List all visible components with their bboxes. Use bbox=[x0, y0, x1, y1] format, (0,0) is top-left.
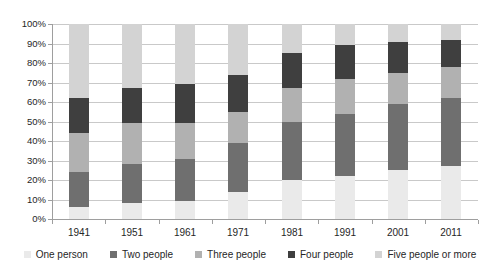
legend: One personTwo peopleThree peopleFour peo… bbox=[0, 249, 500, 260]
bar-1951-segment-two-people bbox=[122, 164, 142, 203]
y-axis-tick-10 bbox=[48, 200, 52, 201]
bar-1991-segment-five-people-or-more bbox=[335, 24, 355, 45]
x-axis-label-1991: 1991 bbox=[323, 227, 367, 238]
plot-area bbox=[52, 24, 478, 219]
bar-2001-segment-four-people bbox=[388, 42, 408, 73]
bar-1961-segment-one-person bbox=[175, 201, 195, 219]
bar-2011-segment-one-person bbox=[441, 166, 461, 219]
bar-1951-segment-three-people bbox=[122, 123, 142, 164]
bar-1941-segment-three-people bbox=[69, 133, 89, 172]
bar-2011-segment-two-people bbox=[441, 98, 461, 166]
x-axis-tick-2 bbox=[159, 220, 160, 224]
bar-1951-segment-five-people-or-more bbox=[122, 24, 142, 88]
gridline-20 bbox=[52, 180, 478, 181]
bar-1941-segment-two-people bbox=[69, 172, 89, 207]
legend-item-one-person: One person bbox=[24, 249, 88, 260]
x-axis-tick-5 bbox=[318, 220, 319, 224]
legend-label-two-people: Two people bbox=[122, 249, 173, 260]
legend-swatch-one-person bbox=[24, 251, 31, 258]
legend-swatch-four-people bbox=[288, 251, 295, 258]
gridline-40 bbox=[52, 141, 478, 142]
y-axis-tick-80 bbox=[48, 63, 52, 64]
y-axis-label-40: 40% bbox=[27, 136, 46, 146]
bar-1951-segment-four-people bbox=[122, 88, 142, 123]
x-axis-label-2001: 2001 bbox=[376, 227, 420, 238]
bar-1981-segment-two-people bbox=[282, 122, 302, 180]
x-axis-tick-6 bbox=[372, 220, 373, 224]
y-axis-label-100: 100% bbox=[22, 19, 46, 29]
y-axis-tick-90 bbox=[48, 44, 52, 45]
gridline-70 bbox=[52, 83, 478, 84]
bar-2011-segment-four-people bbox=[441, 40, 461, 67]
y-axis-label-70: 70% bbox=[27, 78, 46, 88]
bar-2001-segment-five-people-or-more bbox=[388, 24, 408, 42]
y-axis-label-50: 50% bbox=[27, 117, 46, 127]
gridline-50 bbox=[52, 122, 478, 123]
bar-1971-segment-five-people-or-more bbox=[228, 24, 248, 75]
bar-1991-segment-three-people bbox=[335, 79, 355, 114]
y-axis-tick-100 bbox=[48, 24, 52, 25]
x-axis-label-1961: 1961 bbox=[163, 227, 207, 238]
x-axis-tick-4 bbox=[265, 220, 266, 224]
y-axis-label-60: 60% bbox=[27, 97, 46, 107]
bar-2011-segment-three-people bbox=[441, 67, 461, 98]
bar-1971-segment-one-person bbox=[228, 192, 248, 219]
gridline-10 bbox=[52, 200, 478, 201]
gridline-100 bbox=[52, 24, 478, 25]
y-axis-label-30: 30% bbox=[27, 156, 46, 166]
legend-swatch-two-people bbox=[110, 251, 117, 258]
bar-1981-segment-five-people-or-more bbox=[282, 24, 302, 53]
bar-1941-segment-one-person bbox=[69, 207, 89, 219]
y-axis-tick-30 bbox=[48, 161, 52, 162]
x-axis-label-1941: 1941 bbox=[57, 227, 101, 238]
y-axis-tick-50 bbox=[48, 122, 52, 123]
gridline-80 bbox=[52, 63, 478, 64]
legend-label-one-person: One person bbox=[36, 249, 88, 260]
bar-1981-segment-four-people bbox=[282, 53, 302, 88]
bar-1981-segment-one-person bbox=[282, 180, 302, 219]
x-axis-tick-3 bbox=[212, 220, 213, 224]
bar-2001-segment-three-people bbox=[388, 73, 408, 104]
x-axis-label-1951: 1951 bbox=[110, 227, 154, 238]
y-axis-tick-60 bbox=[48, 102, 52, 103]
y-axis-line bbox=[52, 24, 53, 220]
legend-item-two-people: Two people bbox=[110, 249, 173, 260]
legend-label-three-people: Three people bbox=[207, 249, 266, 260]
x-axis-label-1981: 1981 bbox=[270, 227, 314, 238]
gridline-60 bbox=[52, 102, 478, 103]
bar-1961-segment-three-people bbox=[175, 123, 195, 159]
bar-2001-segment-two-people bbox=[388, 104, 408, 170]
stacked-bar-chart: 0%10%20%30%40%50%60%70%80%90%100% 194119… bbox=[0, 0, 500, 280]
y-axis-label-90: 90% bbox=[27, 39, 46, 49]
x-axis-tick-0 bbox=[52, 220, 53, 224]
bar-2011-segment-five-people-or-more bbox=[441, 24, 461, 40]
bar-1941-segment-five-people-or-more bbox=[69, 24, 89, 98]
bar-1941-segment-four-people bbox=[69, 98, 89, 133]
gridline-90 bbox=[52, 44, 478, 45]
y-axis-label-0: 0% bbox=[32, 214, 46, 224]
y-axis-label-80: 80% bbox=[27, 58, 46, 68]
bar-2001-segment-one-person bbox=[388, 170, 408, 219]
y-axis-tick-40 bbox=[48, 141, 52, 142]
y-axis-labels: 0%10%20%30%40%50%60%70%80%90%100% bbox=[0, 0, 48, 230]
x-axis-tick-8 bbox=[478, 220, 479, 224]
bar-1991-segment-two-people bbox=[335, 114, 355, 176]
legend-item-three-people: Three people bbox=[195, 249, 266, 260]
bar-1981-segment-three-people bbox=[282, 88, 302, 122]
bar-1991-segment-one-person bbox=[335, 176, 355, 219]
x-axis-label-2011: 2011 bbox=[429, 227, 473, 238]
bar-1961-segment-four-people bbox=[175, 84, 195, 123]
legend-item-four-people: Four people bbox=[288, 249, 353, 260]
legend-item-five-people-or-more: Five people or more bbox=[375, 249, 476, 260]
bar-1991-segment-four-people bbox=[335, 45, 355, 79]
legend-label-four-people: Four people bbox=[300, 249, 353, 260]
bar-1951-segment-one-person bbox=[122, 203, 142, 219]
x-axis-label-1971: 1971 bbox=[216, 227, 260, 238]
bar-1961-segment-five-people-or-more bbox=[175, 24, 195, 84]
y-axis-tick-20 bbox=[48, 180, 52, 181]
x-axis-labels: 19411951196119711981199120012011 bbox=[52, 227, 478, 241]
x-axis-tick-7 bbox=[425, 220, 426, 224]
legend-label-five-people-or-more: Five people or more bbox=[387, 249, 476, 260]
x-axis-tick-1 bbox=[105, 220, 106, 224]
y-axis-label-20: 20% bbox=[27, 175, 46, 185]
